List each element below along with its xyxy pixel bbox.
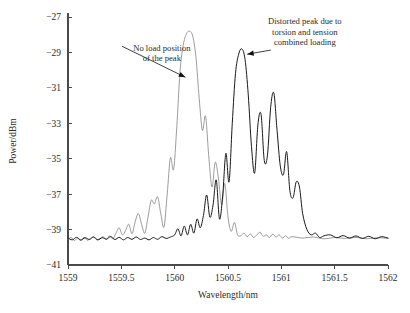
distorted-peak-annotation-text: Distorted peak due totorsion and tension… (268, 16, 342, 47)
annotations-layer: No load positionof the peakDistorted pea… (122, 16, 342, 79)
spectrum-chart: −41−39−37−35−33−31−29−2715591559.5156015… (0, 0, 410, 313)
series-torsion-tension-distorted-spectrum (68, 49, 388, 241)
x-tick-label: 1559.5 (108, 273, 134, 283)
y-tick-label: −31 (46, 83, 61, 93)
x-tick-label: 1562 (379, 273, 398, 283)
series-no-load-spectrum (68, 31, 388, 241)
y-axis-title: Power/dBm (8, 118, 18, 164)
x-tick-label: 1561 (272, 273, 291, 283)
annotation-line: torsion and tension (272, 27, 338, 37)
annotation-line: Distorted peak due to (268, 16, 342, 26)
no-load-annotation-text: No load positionof the peak (133, 43, 191, 64)
distorted-peak-annotation: Distorted peak due totorsion and tension… (247, 16, 342, 57)
annotation-line: No load position (133, 43, 191, 53)
y-tick-label: −35 (46, 154, 61, 164)
x-axis-title: Wavelength/nm (198, 290, 259, 300)
y-tick-label: −37 (46, 190, 61, 200)
x-tick-label: 1559 (59, 273, 78, 283)
axes: −41−39−37−35−33−31−29−2715591559.5156015… (46, 12, 398, 283)
y-tick-label: −29 (46, 48, 61, 58)
x-tick-label: 1561.5 (322, 273, 348, 283)
annotation-line: combined loading (274, 37, 337, 47)
y-tick-label: −27 (46, 12, 61, 22)
x-tick-label: 1560.5 (215, 273, 241, 283)
spectrum-figure: −41−39−37−35−33−31−29−2715591559.5156015… (0, 0, 410, 313)
annotation-line: of the peak (143, 53, 182, 63)
y-tick-label: −39 (46, 225, 61, 235)
y-tick-label: −41 (46, 260, 61, 270)
y-tick-label: −33 (46, 119, 61, 129)
series-layer (68, 31, 388, 241)
x-tick-label: 1560 (165, 273, 184, 283)
no-load-annotation: No load positionof the peak (122, 43, 191, 80)
